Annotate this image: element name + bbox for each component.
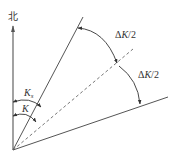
arc-delta-top: [78, 28, 117, 63]
k-variable: K: [22, 103, 29, 114]
delta-k-half-top-label: ΔK/2: [115, 30, 136, 40]
north-label: 北: [8, 12, 18, 22]
delta-k-half-bottom-label: ΔK/2: [138, 70, 159, 80]
half-suffix: /2: [128, 29, 136, 40]
arc-delta-bottom: [119, 66, 140, 104]
ks-label: Ks: [24, 88, 33, 100]
azimuth-diagram: 北 ΔK/2 ΔK/2 Ks K: [0, 0, 178, 156]
s-subscript: s: [31, 92, 34, 100]
k-variable: K: [24, 87, 31, 98]
k-label: K: [22, 104, 29, 114]
half-suffix: /2: [151, 69, 159, 80]
arc-k: [13, 114, 36, 122]
